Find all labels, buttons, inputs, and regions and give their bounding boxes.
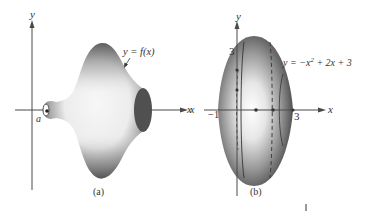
curve-label-b: y = −x2 + 2x + 3 — [282, 56, 352, 68]
y-axis-label-a: y — [29, 8, 35, 20]
curve-label-b-suffix: + 2x + 3 — [314, 57, 352, 68]
y-axis-label-b: y — [235, 10, 241, 22]
figure: y x a y = f(x) (a) y 3 — [0, 0, 374, 211]
x-tick-3: 3 — [294, 110, 300, 122]
panel-a: y x a y = f(x) (a) — [15, 8, 192, 198]
x-point-3 — [291, 108, 294, 111]
point-a — [45, 109, 49, 113]
curve-label-arrow-icon — [124, 63, 128, 69]
x-axis-arrow-icon-b — [318, 108, 326, 113]
x-point-1 — [254, 108, 258, 112]
y-axis-arrow-icon — [30, 20, 35, 28]
y-axis-arrow-icon-b — [235, 21, 240, 29]
curve-label-a: y = f(x) — [122, 46, 155, 58]
end-cap-a — [134, 88, 152, 132]
y-point-2 — [235, 88, 238, 91]
x-axis-label-b-left: x — [189, 104, 195, 115]
panel-b: y 3 x x −1 3 y = −x2 + 2x + 3 (b) — [189, 10, 352, 198]
x-tick-neg1: −1 — [208, 109, 219, 120]
x-point-2 — [271, 108, 275, 112]
x-axis-label-b: x — [327, 103, 333, 115]
caption-a: (a) — [93, 186, 104, 198]
curve-label-b-prefix: y = −x — [282, 57, 311, 68]
y-point-3 — [235, 68, 238, 71]
point-a-label: a — [36, 113, 41, 124]
caption-b: (b) — [250, 186, 262, 198]
y-tick-3: 3 — [229, 45, 235, 57]
